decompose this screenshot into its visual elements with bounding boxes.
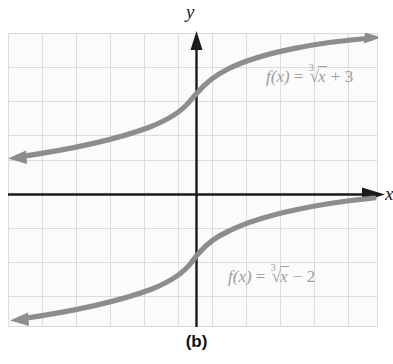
curve-label-upper-equals: = [290, 67, 308, 86]
curve-label-lower: f(x) = 3√x − 2 [228, 268, 315, 285]
curve-label-lower-fn: f(x) [228, 267, 252, 286]
radical-index-upper: 3 [309, 63, 314, 73]
curve-label-upper-fn: f(x) [266, 67, 290, 86]
curve-label-lower-equals: = [252, 267, 270, 286]
cube-root-symbol-upper: 3√x [308, 68, 327, 85]
radicand-upper: x [318, 66, 327, 86]
curve-label-upper: f(x) = 3√x + 3 [266, 68, 353, 85]
figure-caption: (b) [0, 332, 393, 352]
radical-index-lower: 3 [271, 263, 276, 273]
curve-label-lower-tail: − 2 [289, 267, 316, 286]
y-axis-label: y [186, 2, 194, 21]
curve-label-upper-tail: + 3 [327, 67, 354, 86]
cube-root-symbol-lower: 3√x [270, 268, 289, 285]
x-axis-label: x [385, 184, 393, 203]
figure-container: y x f(x) = 3√x + 3 f(x) = 3√x − 2 (b) [0, 0, 393, 364]
radicand-lower: x [280, 266, 289, 286]
graph-plot [0, 0, 393, 364]
